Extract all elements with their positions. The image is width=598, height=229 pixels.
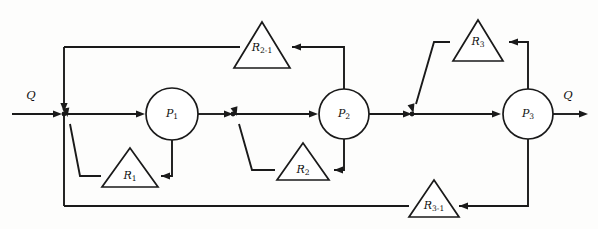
recycle-node-R3[interactable]: R3 [453, 20, 503, 61]
process-flow-figure: P1 P2 P3 R1 R2 R3 R2-1 R3-1 [0, 0, 598, 229]
recycle-node-R3-1[interactable]: R3-1 [409, 180, 459, 217]
recycle-path-R2-1 [60, 43, 344, 112]
recycle-node-R2[interactable]: R2 [277, 143, 329, 180]
process-node-P1[interactable]: P1 [146, 88, 198, 140]
process-node-P3[interactable]: P3 [503, 89, 553, 139]
recycle-node-R2-1[interactable]: R2-1 [234, 22, 290, 68]
main-flow-line [12, 110, 588, 117]
junction-J2 [231, 112, 236, 117]
flow-diagram-canvas: P1 P2 P3 R1 R2 R3 R2-1 R3-1 [0, 0, 598, 229]
junction-J1 [62, 112, 67, 117]
process-node-P2[interactable]: P2 [319, 89, 369, 139]
inlet-flow-label: Q [26, 88, 36, 102]
outlet-flow-label: Q [563, 88, 573, 102]
recycle-node-R1[interactable]: R1 [102, 148, 158, 187]
junction-J3 [410, 112, 415, 117]
